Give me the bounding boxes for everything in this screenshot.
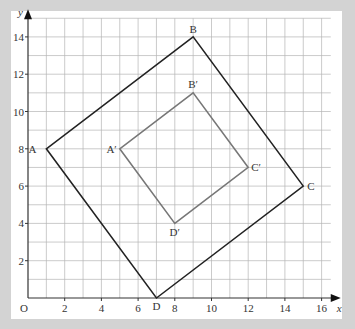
y-axis-label: y [17,6,23,18]
y-tick-label: 10 [13,106,25,118]
x-axis-label: x [336,302,342,314]
vertex-label: B′ [188,78,198,90]
y-tick-label: 8 [19,143,25,155]
grid-lines [28,18,331,298]
origin-label: O [20,302,28,314]
x-axis-arrow-icon [331,294,341,302]
vertex-label: D′ [170,226,180,238]
x-tick-label: 12 [243,302,254,314]
axes: 2468101214162468101214Oxy [13,6,342,314]
y-tick-label: 2 [19,255,25,267]
x-tick-label: 2 [62,302,68,314]
vertex-label: B [189,23,196,35]
x-tick-label: 10 [206,302,218,314]
y-tick-label: 12 [13,68,24,80]
vertex-label: A [28,143,36,155]
vertex-label: D [152,300,160,312]
x-tick-label: 8 [172,302,178,314]
vertex-label: C′ [251,161,261,173]
x-tick-label: 16 [316,302,328,314]
x-tick-label: 14 [279,302,291,314]
shape-abcd-prime: A′B′C′D′ [106,78,261,239]
y-tick-label: 14 [13,31,25,43]
y-tick-label: 4 [19,217,25,229]
vertex-label: A′ [106,143,116,155]
vertex-label: C [307,180,314,192]
y-tick-label: 6 [19,180,25,192]
coordinate-grid: 2468101214162468101214OxyABCDA′B′C′D′ [0,0,355,329]
x-tick-label: 4 [99,302,105,314]
x-tick-label: 6 [135,302,141,314]
y-axis-arrow-icon [24,9,32,19]
